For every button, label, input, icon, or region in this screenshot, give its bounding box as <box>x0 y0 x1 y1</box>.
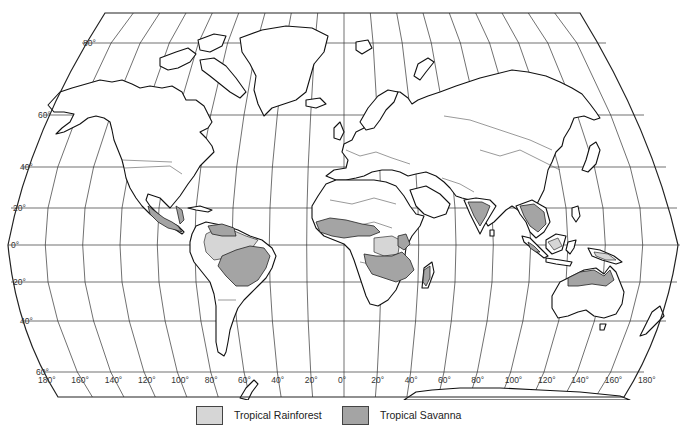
longitude-label: 60° <box>438 375 451 385</box>
sri-lanka <box>490 230 494 236</box>
longitude-label: 40° <box>271 375 284 385</box>
longitude-label: 180° <box>638 375 656 385</box>
latitude-label: 20° <box>13 277 26 287</box>
british-isles <box>334 122 344 140</box>
longitude-label: 180° <box>38 375 56 385</box>
longitude-label: 60° <box>238 375 251 385</box>
arctic-islands-2 <box>198 34 226 52</box>
rainforest-congo <box>374 236 400 256</box>
tasmania <box>600 324 606 330</box>
savanna-australia <box>568 270 614 286</box>
java <box>546 258 572 266</box>
longitude-label: 100° <box>505 375 523 385</box>
svalbard <box>356 40 372 54</box>
longitude-label: 140° <box>571 375 589 385</box>
world-map: 80°60°40°20°0°20°40°60° 180°160°140°120°… <box>0 0 680 400</box>
legend-item-rainforest: Tropical Rainforest <box>196 405 322 425</box>
legend-label-savanna: Tropical Savanna <box>380 409 461 421</box>
longitude-label: 20° <box>305 375 318 385</box>
longitude-label: 160° <box>605 375 623 385</box>
longitude-label: 100° <box>171 375 189 385</box>
japan <box>582 142 600 172</box>
longitude-label: 80° <box>471 375 484 385</box>
longitude-label: 80° <box>205 375 218 385</box>
longitude-label: 160° <box>71 375 89 385</box>
latitude-label: 0° <box>11 240 19 250</box>
savanna-central-america <box>176 206 184 224</box>
rainforest-swatch <box>196 406 223 425</box>
longitude-label: 120° <box>538 375 556 385</box>
sulawesi <box>566 240 576 254</box>
north-america <box>48 80 214 234</box>
philippines <box>572 206 580 222</box>
iceland <box>306 98 326 108</box>
latitude-label: 40° <box>20 162 33 172</box>
latitude-label: 60° <box>38 110 51 120</box>
cuba <box>188 206 212 212</box>
legend-item-savanna: Tropical Savanna <box>342 405 461 425</box>
longitude-label: 40° <box>405 375 418 385</box>
antarctica <box>404 388 630 400</box>
longitude-label: 140° <box>105 375 123 385</box>
latitude-label: 80° <box>83 38 96 48</box>
arctic-islands <box>160 48 196 70</box>
longitude-label: 20° <box>371 375 384 385</box>
novaya-zemlya <box>414 58 434 80</box>
longitude-labels: 180°160°140°120°100°80°60°40°20°0°20°40°… <box>38 375 656 385</box>
latitude-label: 40° <box>20 316 33 326</box>
longitude-label: 0° <box>338 375 346 385</box>
savanna-venezuela <box>208 224 236 236</box>
legend: Tropical Rainforest Tropical Savanna <box>0 400 680 434</box>
longitude-label: 120° <box>138 375 156 385</box>
legend-label-rainforest: Tropical Rainforest <box>234 409 322 421</box>
savanna-swatch <box>342 406 369 425</box>
baffin-island <box>200 58 246 98</box>
continents <box>48 26 664 400</box>
latitude-label: 20° <box>13 203 26 213</box>
